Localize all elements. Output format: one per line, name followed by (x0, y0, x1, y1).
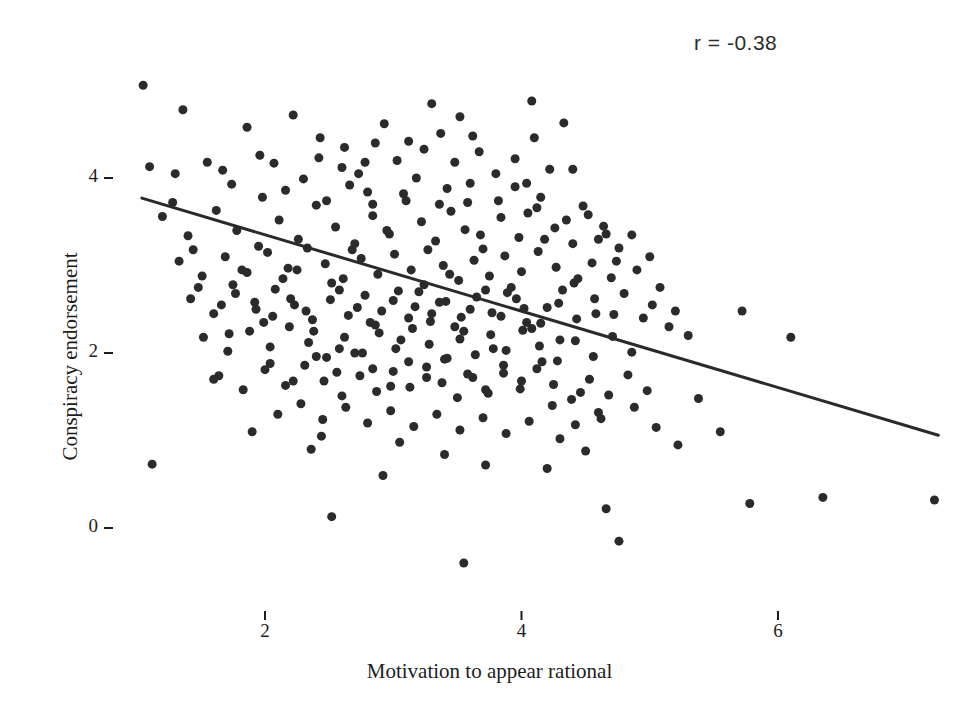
data-point (368, 364, 377, 373)
data-point (327, 279, 336, 288)
data-point (517, 377, 526, 386)
data-point (335, 344, 344, 353)
data-point (258, 193, 267, 202)
data-point (225, 329, 234, 338)
data-point (350, 349, 359, 358)
data-point (549, 380, 558, 389)
data-point (552, 263, 561, 272)
data-point (499, 361, 508, 370)
data-point (184, 231, 193, 240)
trendline (142, 198, 938, 435)
data-point (491, 169, 500, 178)
data-point (353, 303, 362, 312)
data-point (317, 432, 326, 441)
data-point (363, 188, 372, 197)
data-point (335, 286, 344, 295)
data-point (630, 403, 639, 412)
data-point (337, 163, 346, 172)
data-point (559, 118, 568, 127)
data-point (671, 307, 680, 316)
data-point (340, 333, 349, 342)
data-point (656, 283, 665, 292)
data-point (459, 327, 468, 336)
data-point (322, 353, 331, 362)
scatter-plot-figure: 2 4 6 0 2 4 Motivation to appear rationa… (0, 0, 979, 710)
data-point (602, 230, 611, 239)
data-point (332, 368, 341, 377)
data-point (218, 166, 227, 175)
data-point (203, 158, 212, 167)
data-point (530, 133, 539, 142)
data-point (266, 359, 275, 368)
data-point (562, 216, 571, 225)
data-point (371, 321, 380, 330)
data-point (435, 298, 444, 307)
data-point (145, 162, 154, 171)
data-point (543, 303, 552, 312)
data-point (738, 307, 747, 316)
data-point (304, 338, 313, 347)
data-point (337, 391, 346, 400)
data-point (535, 342, 544, 351)
data-point (443, 184, 452, 193)
data-point (627, 348, 636, 357)
data-point (361, 291, 370, 300)
data-point (930, 496, 939, 505)
data-point (609, 310, 618, 319)
data-point (389, 296, 398, 305)
data-point (331, 223, 340, 232)
data-point (380, 119, 389, 128)
data-point (673, 440, 682, 449)
data-point (527, 324, 536, 333)
data-point (198, 272, 207, 281)
data-point (445, 270, 454, 279)
data-point (436, 129, 445, 138)
data-point (536, 319, 545, 328)
data-point (435, 200, 444, 209)
data-point (648, 300, 657, 309)
data-point (378, 471, 387, 480)
correlation-annotation: r = -0.38 (694, 31, 777, 55)
data-point (371, 139, 380, 148)
data-point (422, 363, 431, 372)
data-point (550, 223, 559, 232)
data-point (420, 145, 429, 154)
data-point (227, 180, 236, 189)
data-point (476, 230, 485, 239)
data-point (502, 429, 511, 438)
data-point (426, 317, 435, 326)
data-point (361, 158, 370, 167)
data-point (481, 286, 490, 295)
data-point (614, 537, 623, 546)
data-point (404, 137, 413, 146)
data-point (275, 216, 284, 225)
data-point (645, 252, 654, 261)
data-point (212, 206, 221, 215)
data-point (555, 335, 564, 344)
data-point (427, 99, 436, 108)
data-point (285, 322, 294, 331)
data-point (643, 386, 652, 395)
data-point (584, 210, 593, 219)
data-point (612, 257, 621, 266)
data-point (502, 346, 511, 355)
data-point (281, 186, 290, 195)
data-point (221, 252, 230, 261)
y-tick-label-4: 4 (64, 165, 98, 187)
data-point (455, 426, 464, 435)
data-point (481, 385, 490, 394)
data-point (407, 265, 416, 274)
data-point (372, 387, 381, 396)
data-point (558, 286, 567, 295)
data-point (620, 289, 629, 298)
data-point (446, 207, 455, 216)
data-point (158, 212, 167, 221)
data-point (607, 273, 616, 282)
data-point (286, 294, 295, 303)
data-point (350, 239, 359, 248)
data-point (594, 235, 603, 244)
data-point (389, 367, 398, 376)
data-point (248, 427, 257, 436)
data-point (308, 315, 317, 324)
data-point (394, 286, 403, 295)
